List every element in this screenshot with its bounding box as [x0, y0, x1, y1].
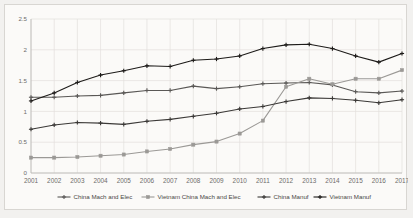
data-point	[308, 77, 311, 80]
data-point	[122, 153, 125, 156]
data-point	[168, 117, 172, 121]
y-axis-tick-label: 0	[24, 169, 28, 176]
y-axis-tick-label: 1.5	[18, 77, 27, 84]
x-axis-tick-label: 2005	[117, 177, 132, 184]
data-point	[75, 80, 79, 84]
data-point	[400, 69, 403, 72]
x-axis-tick-label: 2003	[70, 177, 85, 184]
x-axis-tick-label: 2016	[372, 177, 387, 184]
x-axis-tick-label: 2008	[186, 177, 201, 184]
data-point	[377, 101, 381, 105]
x-axis-tick-label: 2004	[93, 177, 108, 184]
data-point	[53, 156, 56, 159]
x-axis-tick-label: 2007	[163, 177, 178, 184]
legend-marker	[62, 195, 66, 199]
x-axis-tick-label: 2015	[349, 177, 364, 184]
data-point	[99, 154, 102, 157]
legend: China Mach and ElecVietnam China Mach an…	[58, 193, 372, 200]
y-axis-tick-label: 1	[24, 108, 28, 115]
data-point	[168, 88, 172, 92]
data-point	[284, 81, 288, 85]
data-point	[98, 121, 102, 125]
data-point	[400, 89, 404, 93]
chart-card: 00.511.522.52001200220032004200520062007…	[4, 4, 407, 210]
legend-item-4[interactable]: Vietnam Manuf	[314, 193, 372, 200]
data-point	[307, 42, 311, 46]
data-point	[400, 51, 404, 55]
data-point	[145, 119, 149, 123]
data-point	[284, 85, 287, 88]
data-point	[238, 54, 242, 58]
data-point	[145, 64, 149, 68]
x-axis-tick-label: 2006	[140, 177, 155, 184]
data-point	[238, 107, 242, 111]
data-point	[29, 95, 33, 99]
data-point	[191, 58, 195, 62]
x-axis-tick-label: 2011	[256, 177, 270, 184]
data-point	[354, 54, 358, 58]
data-point	[261, 104, 265, 108]
data-point	[261, 119, 264, 122]
legend-item-1[interactable]: China Mach and Elec	[58, 193, 133, 200]
data-point	[214, 111, 218, 115]
legend-item-3[interactable]: China Manuf	[258, 193, 309, 200]
legend-label: China Manuf	[274, 193, 309, 200]
data-point	[284, 99, 288, 103]
data-point	[377, 77, 380, 80]
data-point	[284, 43, 288, 47]
data-point	[354, 77, 357, 80]
data-point	[52, 95, 56, 99]
legend-label: Vietnam China Mach and Elec	[158, 193, 241, 200]
legend-item-2[interactable]: Vietnam China Mach and Elec	[142, 193, 241, 200]
data-point	[238, 85, 242, 89]
legend-label: Vietnam Manuf	[330, 193, 372, 200]
data-point	[238, 132, 241, 135]
chart-svg: 00.511.522.52001200220032004200520062007…	[5, 5, 408, 211]
x-axis-tick-label: 2012	[279, 177, 294, 184]
data-point	[400, 98, 404, 102]
data-point	[122, 91, 126, 95]
data-point	[377, 91, 381, 95]
data-point	[330, 96, 334, 100]
data-point	[192, 143, 195, 146]
data-point	[214, 57, 218, 61]
data-point	[75, 120, 79, 124]
x-axis-tick-label: 2010	[233, 177, 248, 184]
x-axis-tick-label: 2017	[395, 177, 408, 184]
data-point	[52, 91, 56, 95]
data-point	[145, 150, 148, 153]
data-point	[76, 155, 79, 158]
data-point	[331, 83, 334, 86]
data-point	[29, 99, 33, 103]
x-axis-tick-label: 2014	[325, 177, 340, 184]
line-chart: 00.511.522.52001200220032004200520062007…	[5, 5, 408, 211]
data-point	[75, 94, 79, 98]
legend-marker	[262, 195, 266, 199]
data-point	[377, 60, 381, 64]
data-point	[191, 114, 195, 118]
x-axis-tick-label: 2009	[209, 177, 224, 184]
x-axis-tick-label: 2001	[24, 177, 39, 184]
data-point	[261, 82, 265, 86]
data-point	[122, 122, 126, 126]
data-point	[122, 69, 126, 73]
data-point	[98, 93, 102, 97]
y-axis-tick-label: 0.5	[18, 138, 27, 145]
data-point	[307, 80, 311, 84]
data-point	[354, 98, 358, 102]
data-point	[214, 87, 218, 91]
legend-marker	[318, 195, 322, 199]
data-point	[145, 88, 149, 92]
data-point	[98, 73, 102, 77]
data-point	[215, 140, 218, 143]
legend-marker	[146, 195, 149, 198]
data-point	[307, 96, 311, 100]
data-point	[29, 127, 33, 131]
data-point	[52, 123, 56, 127]
data-point	[354, 90, 358, 94]
data-point	[169, 147, 172, 150]
x-axis-tick-label: 2002	[47, 177, 62, 184]
x-axis-tick-label: 2013	[302, 177, 317, 184]
y-axis-tick-label: 2	[24, 46, 28, 53]
legend-label: China Mach and Elec	[74, 193, 133, 200]
